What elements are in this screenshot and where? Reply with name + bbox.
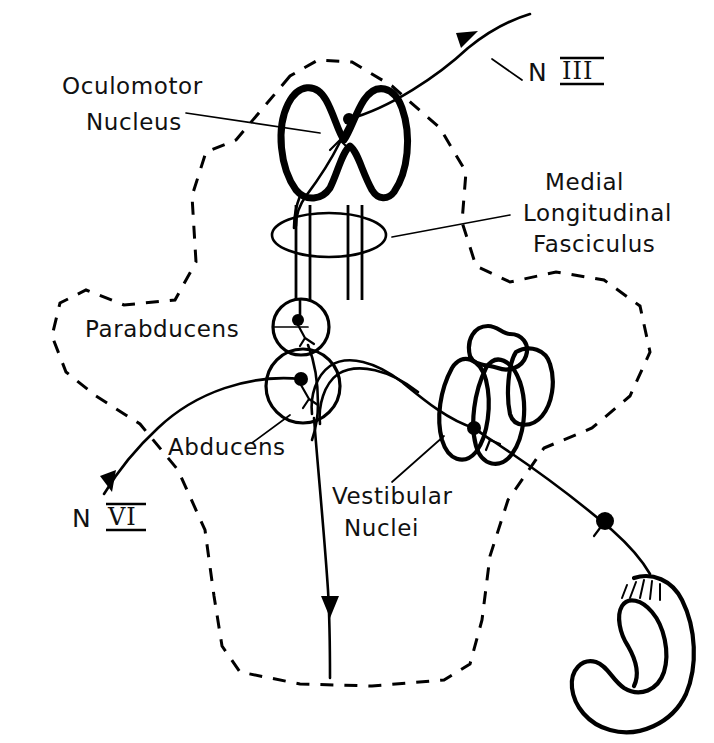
label-nerve-three-prefix: N: [528, 58, 548, 87]
neuroanatomy-figure: Oculomotor Nucleus N III Medial Longitud…: [0, 0, 714, 743]
label-vestibular-line1: Vestibular: [332, 483, 453, 509]
label-oculomotor-line2: Nucleus: [86, 109, 182, 135]
text-labels: Oculomotor Nucleus N III Medial Longitud…: [62, 57, 672, 541]
abducens-nucleus: [266, 345, 340, 440]
label-mlf-line1: Medial: [545, 169, 624, 195]
label-vestibular-line2: Nuclei: [344, 515, 419, 541]
medial-longitudinal-fasciculus: [272, 205, 386, 300]
hair-cell-bristles: [622, 580, 660, 600]
leader-nerve-three: [492, 59, 522, 80]
vestibulospinal-tract: [314, 418, 339, 678]
leader-oculomotor: [186, 113, 320, 133]
label-mlf-line2: Longitudinal: [523, 200, 672, 226]
label-abducens: Abducens: [168, 434, 286, 460]
label-mlf-line3: Fasciculus: [533, 231, 655, 257]
leader-mlf: [392, 215, 510, 237]
label-nerve-three-numeral: III: [562, 57, 593, 85]
vestibular-nerve-afferent: [476, 430, 650, 574]
semicircular-canal: [572, 576, 694, 732]
brainstem-outline: [52, 60, 650, 686]
label-parabducens: Parabducens: [85, 316, 239, 342]
leader-vestibular: [392, 436, 444, 482]
label-nerve-six-prefix: N: [72, 504, 92, 533]
oculomotor-nerve-fiber: [330, 14, 530, 150]
label-nerve-six-numeral: VI: [107, 503, 137, 531]
label-oculomotor-line1: Oculomotor: [62, 73, 203, 99]
diagram-canvas: Oculomotor Nucleus N III Medial Longitud…: [0, 0, 714, 743]
